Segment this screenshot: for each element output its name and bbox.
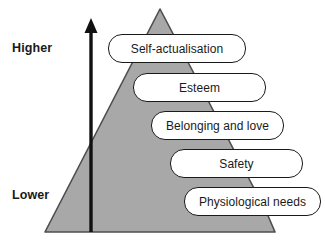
axis-label-higher: Higher: [12, 41, 52, 55]
maslow-hierarchy-diagram: Higher Lower Self-actualisation Esteem B…: [0, 0, 325, 245]
need-level-belonging-and-love[interactable]: Belonging and love: [151, 111, 284, 140]
axis-label-lower: Lower: [12, 188, 49, 202]
need-level-esteem[interactable]: Esteem: [133, 73, 266, 102]
need-level-safety[interactable]: Safety: [170, 149, 303, 178]
need-level-self-actualisation[interactable]: Self-actualisation: [108, 34, 246, 63]
need-level-physiological-needs[interactable]: Physiological needs: [184, 187, 321, 216]
